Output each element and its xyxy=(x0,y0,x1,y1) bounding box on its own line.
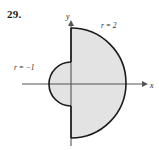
inner-curve-label: r = −1 xyxy=(14,63,35,72)
outer-curve-label: r = 2 xyxy=(101,21,117,30)
x-axis-label: x xyxy=(149,81,154,90)
shaded-region xyxy=(49,28,126,138)
polar-plot: y x r = 2 r = −1 xyxy=(0,0,159,150)
polar-region-figure: 29. y x r = 2 r = −1 xyxy=(0,0,159,150)
outer-semicircle-fill xyxy=(71,28,126,138)
y-axis-label: y xyxy=(65,12,70,21)
x-axis-arrow xyxy=(142,81,148,87)
